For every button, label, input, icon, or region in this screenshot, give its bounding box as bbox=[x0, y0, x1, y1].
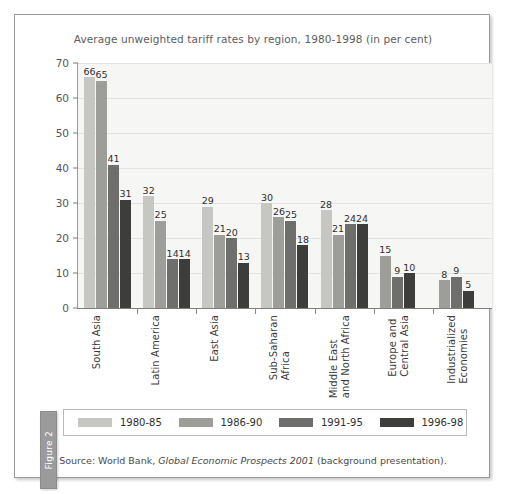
bar[interactable]: 10 bbox=[404, 273, 415, 308]
bar-value-label: 10 bbox=[403, 263, 415, 273]
bar-slot: 20 bbox=[226, 63, 237, 308]
category-label: Industrialized Economies bbox=[446, 315, 470, 384]
category-label: Europe and Central Asia bbox=[387, 315, 411, 377]
bar[interactable]: 8 bbox=[439, 280, 450, 308]
legend-label: 1980-85 bbox=[120, 417, 162, 428]
bar-value-label: 20 bbox=[226, 228, 238, 238]
legend-label: 1996-98 bbox=[422, 417, 464, 428]
y-axis-tick bbox=[73, 63, 78, 64]
bar[interactable]: 14 bbox=[179, 259, 190, 308]
bar[interactable]: 26 bbox=[273, 217, 284, 308]
source-publication: Global Economic Prospects 2001 bbox=[158, 455, 314, 466]
bar-slot: 13 bbox=[238, 63, 249, 308]
bar[interactable]: 28 bbox=[321, 210, 332, 308]
bar-group: 15910 bbox=[380, 63, 416, 308]
bar[interactable]: 14 bbox=[167, 259, 178, 308]
bar-value-label: 25 bbox=[285, 210, 297, 220]
bar-group: 29212013 bbox=[202, 63, 250, 308]
group-separator-tick bbox=[137, 308, 138, 314]
bar-slot: 21 bbox=[214, 63, 225, 308]
bar-value-label: 65 bbox=[95, 70, 107, 80]
bar-value-label: 21 bbox=[214, 224, 226, 234]
source-prefix: Source: World Bank, bbox=[59, 455, 158, 466]
bar-value-label: 21 bbox=[332, 224, 344, 234]
bar[interactable]: 21 bbox=[214, 235, 225, 309]
legend-item[interactable]: 1986-90 bbox=[165, 417, 266, 428]
y-axis-tick-label: 30 bbox=[56, 197, 69, 209]
bar[interactable]: 21 bbox=[333, 235, 344, 309]
bar-slot: 41 bbox=[108, 63, 119, 308]
bar[interactable]: 65 bbox=[96, 81, 107, 309]
category-axis-labels: South AsiaLatin AmericaEast AsiaSub-Saha… bbox=[77, 315, 491, 399]
bar[interactable]: 18 bbox=[297, 245, 308, 308]
bar[interactable]: 29 bbox=[202, 207, 213, 309]
chart-title: Average unweighted tariff rates by regio… bbox=[15, 33, 491, 45]
legend-swatch bbox=[179, 418, 213, 427]
legend-label: 1991-95 bbox=[321, 417, 363, 428]
category-label: Sub-Saharan Africa bbox=[268, 315, 292, 380]
legend-item[interactable]: 1996-98 bbox=[366, 417, 467, 428]
legend-item[interactable]: 1991-95 bbox=[265, 417, 366, 428]
source-suffix: (background presentation). bbox=[314, 455, 447, 466]
bar[interactable]: 9 bbox=[451, 277, 462, 309]
bar[interactable]: 32 bbox=[143, 196, 154, 308]
bar-value-label: 5 bbox=[465, 280, 471, 290]
bar[interactable]: 41 bbox=[108, 165, 119, 309]
bar-slot: 9 bbox=[392, 63, 403, 308]
bar-value-label: 28 bbox=[320, 200, 332, 210]
bar-slot: 66 bbox=[84, 63, 95, 308]
bar[interactable]: 24 bbox=[357, 224, 368, 308]
bar-value-label: 24 bbox=[356, 214, 368, 224]
bar[interactable]: 24 bbox=[345, 224, 356, 308]
bar-slot: 65 bbox=[96, 63, 107, 308]
y-axis-tick bbox=[73, 168, 78, 169]
bar-value-label: 14 bbox=[179, 249, 191, 259]
bar-slot: 25 bbox=[285, 63, 296, 308]
bar[interactable]: 30 bbox=[261, 203, 272, 308]
y-axis-tick-label: 60 bbox=[56, 92, 69, 104]
legend-item[interactable]: 1980-85 bbox=[64, 417, 165, 428]
bar[interactable]: 13 bbox=[238, 263, 249, 309]
bar-slot: 24 bbox=[357, 63, 368, 308]
bar-value-label: 9 bbox=[394, 266, 400, 276]
bar-slot: 30 bbox=[261, 63, 272, 308]
bar[interactable]: 25 bbox=[155, 221, 166, 309]
bar-slot: 28 bbox=[321, 63, 332, 308]
bar[interactable]: 25 bbox=[285, 221, 296, 309]
bar-value-label: 29 bbox=[202, 196, 214, 206]
bar[interactable]: 66 bbox=[84, 77, 95, 308]
y-axis-tick bbox=[73, 238, 78, 239]
bar-value-label: 9 bbox=[453, 266, 459, 276]
y-axis-tick bbox=[73, 273, 78, 274]
bar-slot: 14 bbox=[179, 63, 190, 308]
bar-slot: 32 bbox=[143, 63, 154, 308]
bar-value-label: 66 bbox=[83, 67, 95, 77]
y-axis-tick-label: 0 bbox=[62, 302, 69, 314]
bar-value-label: 8 bbox=[441, 270, 447, 280]
group-separator-tick bbox=[315, 308, 316, 314]
bar-slot: 24 bbox=[345, 63, 356, 308]
bar[interactable]: 31 bbox=[120, 200, 131, 309]
group-separator-tick bbox=[433, 308, 434, 314]
group-separator-tick bbox=[255, 308, 256, 314]
bar-value-label: 32 bbox=[143, 186, 155, 196]
y-axis-tick bbox=[73, 308, 78, 309]
figure-panel: Average unweighted tariff rates by regio… bbox=[14, 14, 490, 478]
bar-value-label: 15 bbox=[379, 245, 391, 255]
bar-value-label: 18 bbox=[297, 235, 309, 245]
bar-slot: 5 bbox=[463, 63, 474, 308]
y-axis-tick-label: 50 bbox=[56, 127, 69, 139]
bar[interactable]: 15 bbox=[380, 256, 391, 309]
bar-slot: 8 bbox=[439, 63, 450, 308]
bar[interactable]: 20 bbox=[226, 238, 237, 308]
bar-value-label: 25 bbox=[155, 210, 167, 220]
y-axis-tick bbox=[73, 133, 78, 134]
bar[interactable]: 5 bbox=[463, 291, 474, 309]
plot-inner: 0102030405060706665413132251414292120133… bbox=[78, 63, 492, 308]
y-axis-tick-label: 10 bbox=[56, 267, 69, 279]
bar-value-label: 24 bbox=[344, 214, 356, 224]
bar[interactable]: 9 bbox=[392, 277, 403, 309]
group-separator-tick bbox=[196, 308, 197, 314]
bar-group: 66654131 bbox=[84, 63, 132, 308]
bar-group: 28212424 bbox=[321, 63, 369, 308]
